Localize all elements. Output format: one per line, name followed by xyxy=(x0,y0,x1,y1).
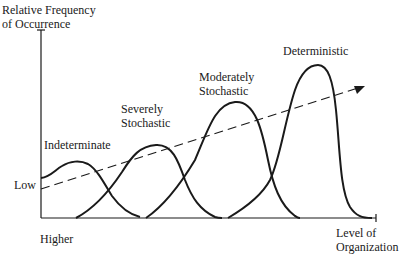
curve-label-severely-line1: Severely xyxy=(121,102,163,116)
curve-deterministic xyxy=(228,65,372,218)
y-axis xyxy=(37,30,45,218)
curve-label-moderately-line1: Moderately xyxy=(199,70,254,84)
x-axis-end-label-line2: Organization xyxy=(336,240,398,254)
curve-label-moderately-line2: Stochastic xyxy=(199,84,248,98)
x-axis-end-label-line1: Level of xyxy=(336,226,376,240)
x-axis xyxy=(41,214,376,222)
curve-label-severely-line2: Stochastic xyxy=(121,116,170,130)
diagram-svg xyxy=(0,0,404,255)
curve-label-indeterminate: Indeterminate xyxy=(44,138,111,152)
y-axis-label-line2: of Occurrence xyxy=(2,17,70,31)
curve-severely-stochastic xyxy=(76,145,222,218)
x-axis-start-label: Higher xyxy=(40,232,73,246)
curve-label-deterministic: Deterministic xyxy=(283,44,348,58)
diagram-canvas: Relative Frequency of Occurrence Low Hig… xyxy=(0,0,404,255)
y-axis-low-label: Low xyxy=(14,178,36,192)
y-axis-label-line1: Relative Frequency xyxy=(2,3,96,17)
